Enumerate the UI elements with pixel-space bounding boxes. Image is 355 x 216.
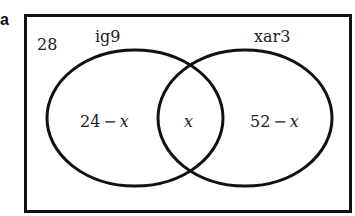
- outside-value: 28: [37, 35, 57, 54]
- set-label-ig9: ig9: [95, 27, 121, 46]
- venn-diagram: 28 ig9 xar3 24−x x 52−x: [0, 0, 355, 216]
- region-ig9-only: 24−x: [80, 112, 129, 131]
- region-xar3-only: 52−x: [250, 112, 299, 131]
- set-ellipse-ig9: [47, 50, 223, 186]
- set-label-xar3: xar3: [254, 27, 290, 46]
- region-intersection: x: [184, 112, 193, 131]
